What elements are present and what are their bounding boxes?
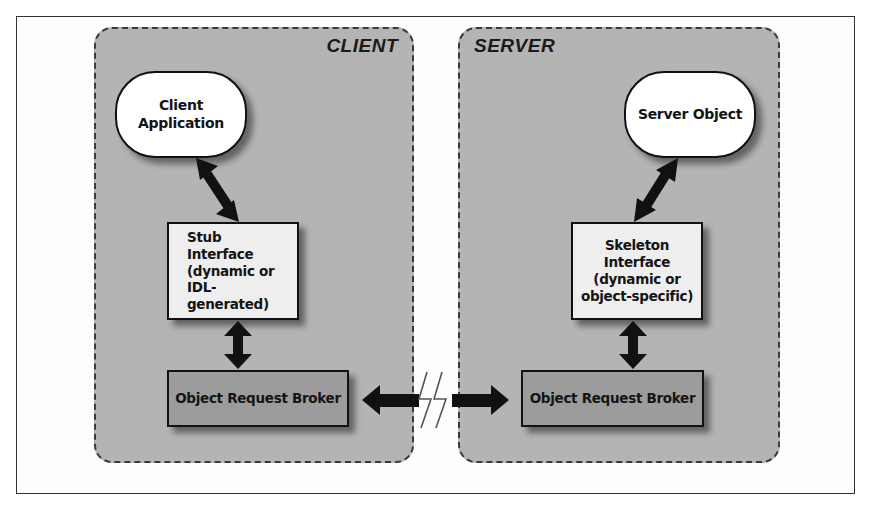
client-panel-title: CLIENT [326, 35, 398, 57]
server-panel-title: SERVER [474, 35, 555, 57]
skeleton-interface-node: Skeleton Interface (dynamic or object-sp… [571, 222, 703, 320]
server-object-node: Server Object [624, 71, 756, 158]
client-orb-node: Object Request Broker [167, 370, 349, 427]
stub-interface-node: Stub Interface (dynamic or IDL-generated… [167, 222, 299, 320]
server-orb-node: Object Request Broker [521, 370, 704, 427]
client-application-node: Client Application [115, 71, 247, 158]
